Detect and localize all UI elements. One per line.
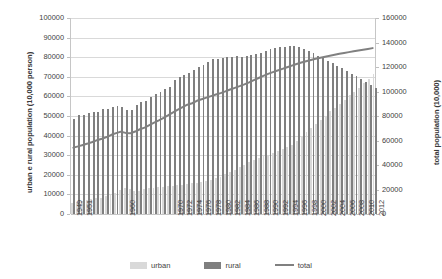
total-line-series	[71, 18, 375, 214]
x-axis-tick-label: 2000	[319, 200, 328, 216]
x-axis-tick-label: 1982	[233, 200, 242, 216]
y-axis-left-tick-label: 70000	[4, 73, 64, 81]
y-axis-left-title: urban e rural population (10,000 person)	[25, 38, 34, 208]
x-axis-tick-label: 1974	[195, 200, 204, 216]
chart-legend: urban rural total	[0, 258, 442, 272]
x-axis-tick-label: 1996	[300, 200, 309, 216]
y-axis-left-tick-mark	[67, 214, 70, 215]
x-axis-tick-label: 2012	[377, 200, 386, 216]
x-axis-tick-label: 1988	[262, 200, 271, 216]
y-axis-right-tick-label: 100000	[382, 88, 442, 96]
x-axis-tick-label: 1949	[75, 200, 84, 216]
legend-item-total: total	[275, 261, 312, 270]
y-axis-left-tick-label: 20000	[4, 171, 64, 179]
y-axis-left-tick-label: 80000	[4, 53, 64, 61]
y-axis-right-tick-label: 20000	[382, 186, 442, 194]
plot-area	[70, 18, 376, 214]
x-axis-tick-label: 2006	[348, 200, 357, 216]
x-axis-tick-label: 1990	[271, 200, 280, 216]
x-axis-tick-label: 1960	[128, 200, 137, 216]
y-axis-left-tick-label: 40000	[4, 132, 64, 140]
y-axis-left-tick-label: 10000	[4, 190, 64, 198]
y-axis-right-tick-label: 120000	[382, 63, 442, 71]
legend-item-urban: urban	[130, 261, 170, 270]
y-axis-right-tick-label: 140000	[382, 39, 442, 47]
y-axis-right-tick-label: 80000	[382, 112, 442, 120]
y-axis-left-tick-label: 30000	[4, 151, 64, 159]
legend-label-rural: rural	[225, 261, 240, 270]
legend-swatch-urban	[130, 262, 147, 269]
x-axis-tick-label: 2010	[367, 200, 376, 216]
x-axis-tick-label: 1992	[281, 200, 290, 216]
x-axis-tick-label: 1951	[85, 200, 94, 216]
x-axis-tick-label: 2004	[338, 200, 347, 216]
legend-label-total: total	[298, 261, 312, 270]
y-axis-left-tick-label: 0	[4, 210, 64, 218]
y-axis-left-tick-label: 100000	[4, 14, 64, 22]
legend-item-rural: rural	[204, 261, 240, 270]
y-axis-right-tick-label: 0	[382, 210, 442, 218]
y-axis-right-tick-label: 160000	[382, 14, 442, 22]
legend-swatch-rural	[204, 262, 221, 269]
y-axis-right-tick-label: 40000	[382, 161, 442, 169]
x-axis-tick-label: 1994	[291, 200, 300, 216]
x-axis-tick-label: 1984	[243, 200, 252, 216]
x-axis-tick-label: 1972	[185, 200, 194, 216]
y-axis-left-tick-label: 90000	[4, 34, 64, 42]
x-axis-tick-label: 1978	[214, 200, 223, 216]
y-axis-left-tick-label: 50000	[4, 112, 64, 120]
x-axis-tick-label: 2008	[357, 200, 366, 216]
x-axis-tick-label: 1970	[176, 200, 185, 216]
x-axis-tick-label: 2002	[329, 200, 338, 216]
x-axis-tick-label: 1986	[252, 200, 261, 216]
population-chart: urban e rural population (10,000 person)…	[0, 0, 442, 279]
y-axis-left-tick-label: 60000	[4, 92, 64, 100]
x-axis-tick-labels: 1949195119601970197219741976197819801982…	[70, 216, 376, 254]
y-axis-right-tick-label: 60000	[382, 137, 442, 145]
legend-label-urban: urban	[151, 261, 170, 270]
x-axis-tick-label: 1976	[204, 200, 213, 216]
x-axis-tick-label: 1998	[310, 200, 319, 216]
x-axis-tick-label: 1980	[224, 200, 233, 216]
legend-swatch-total	[275, 264, 294, 266]
